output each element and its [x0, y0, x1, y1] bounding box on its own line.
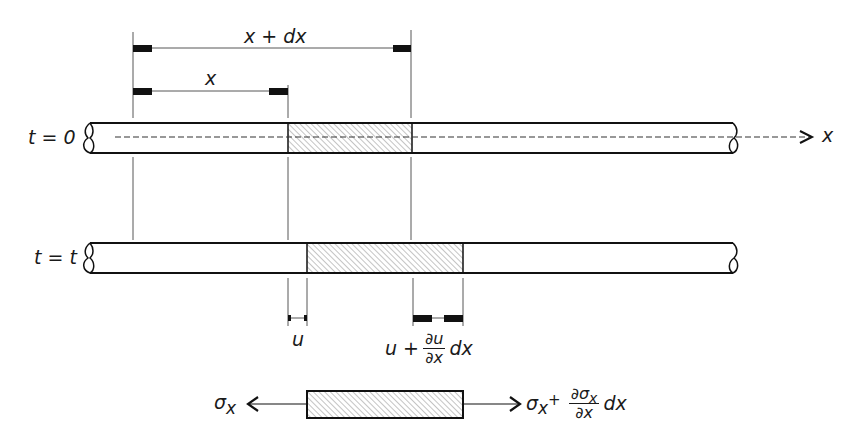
label-x: x — [205, 69, 216, 88]
x-axis — [115, 131, 812, 143]
dimension-u-plus-du — [413, 315, 463, 322]
sigma-subscript: x — [226, 398, 236, 418]
extension-lines — [133, 30, 463, 326]
dimension-u — [288, 315, 307, 321]
sigma-subscript: x — [538, 400, 548, 417]
bar-t0 — [84, 123, 738, 153]
sigma-symbol: σ — [526, 394, 538, 413]
sigma-symbol: σ — [214, 391, 226, 413]
fraction-denominator: ∂x — [575, 404, 593, 421]
stress-element — [248, 391, 520, 418]
fraction-denominator: ∂x — [425, 349, 443, 366]
label-tt-text: t = t — [34, 246, 77, 268]
label-sigma-x-right: σx+ ∂σx ∂x dx — [526, 386, 627, 421]
fraction-numerator: ∂σx — [569, 386, 600, 404]
dsigma-symbol: ∂σ — [571, 384, 589, 403]
label-t0-text: t = 0 — [28, 126, 76, 148]
diagram-canvas — [0, 0, 859, 443]
plus-sign: + — [548, 393, 561, 408]
break-left-icon — [84, 243, 94, 273]
axis-label-x: x — [822, 126, 833, 145]
dsigma-subscript: x — [589, 390, 597, 406]
bar-tt — [84, 243, 738, 273]
sigma-tail: dx — [603, 394, 626, 413]
break-right-icon — [729, 243, 737, 273]
fraction-numerator: ∂u — [423, 331, 445, 349]
break-right-icon — [729, 123, 737, 153]
break-left-icon — [84, 123, 94, 153]
du-dx-fraction: ∂u ∂x — [423, 331, 445, 366]
label-u: u — [292, 330, 304, 349]
label-t0: t = 0 — [28, 128, 76, 147]
label-u-plus-du: u + ∂u ∂x dx — [385, 331, 473, 366]
dimension-x — [133, 88, 288, 95]
label-x-plus-dx: x + dx — [244, 27, 307, 46]
label-tt: t = t — [34, 248, 77, 267]
u-plus-tail: dx — [449, 339, 472, 358]
label-sigma-x-left: σx — [214, 393, 236, 412]
dsigma-dx-fraction: ∂σx ∂x — [569, 386, 600, 421]
u-plus-lhs: u + — [385, 339, 419, 358]
